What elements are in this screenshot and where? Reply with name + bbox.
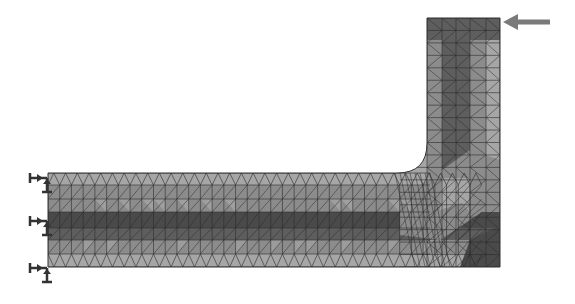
fea-mesh-figure <box>0 0 575 304</box>
arrow-left-icon <box>503 14 550 30</box>
stress-contour-bands <box>40 10 510 280</box>
